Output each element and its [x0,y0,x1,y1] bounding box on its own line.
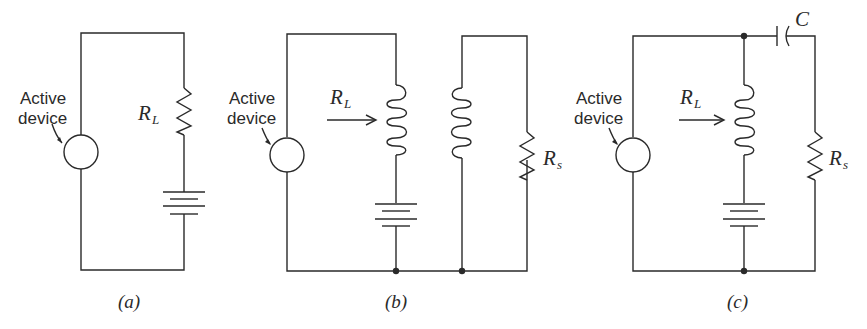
battery-icon [163,192,205,214]
load-label: R [329,85,343,109]
battery-icon [375,204,417,226]
active-device-icon [64,135,98,169]
resistor-rs-icon [808,132,822,180]
junction-dot [741,268,747,274]
wire-a-bottom [81,169,184,270]
rs-label: R [542,146,556,170]
primary-inductor-icon [387,85,407,155]
caption-c: (c) [727,291,748,313]
junction-dot [741,33,747,39]
pointer-arrowhead-icon [612,139,618,145]
junction-dot [459,268,465,274]
secondary-inductor-icon [452,88,472,158]
source-label-line1: Active [20,89,66,108]
resistor-rs-icon [520,132,534,180]
rs-label: R [828,146,842,170]
panel-c: Active device R L R s C (c) [574,7,848,313]
source-label-line2: device [18,109,67,128]
wire-c-top-left [633,36,777,137]
wire-c-top-right [786,36,815,132]
circuit-figure: Active device R L (a) [0,0,867,329]
inductor-icon [735,85,755,155]
caption-a: (a) [118,291,140,313]
rs-label-sub: s [557,157,562,172]
rs-label-sub: s [843,157,848,172]
battery-icon [723,204,765,226]
caption-b: (b) [385,291,407,313]
wire-a-top [81,33,184,135]
wire-b-sec-top [462,36,527,132]
source-label-line2: device [574,109,623,128]
active-device-icon [270,138,304,172]
load-label-sub: L [343,96,351,111]
resistor-icon [177,88,191,135]
panel-a: Active device R L (a) [18,33,205,313]
load-label-sub: L [151,112,159,127]
capacitor-label: C [795,7,810,31]
load-label: R [679,85,693,109]
wire-b-bottom [287,160,527,271]
load-label-sub: L [693,96,701,111]
load-label: R [137,101,151,125]
junction-dot [393,268,399,274]
panel-b: Active device R L R s (b) [227,34,562,313]
source-label-line1: Active [229,89,275,108]
active-device-icon [616,138,650,172]
pointer-arrowhead-icon [265,139,271,145]
wire-c-bottom [633,172,815,271]
source-label-line1: Active [576,89,622,108]
source-label-line2: device [227,109,276,128]
